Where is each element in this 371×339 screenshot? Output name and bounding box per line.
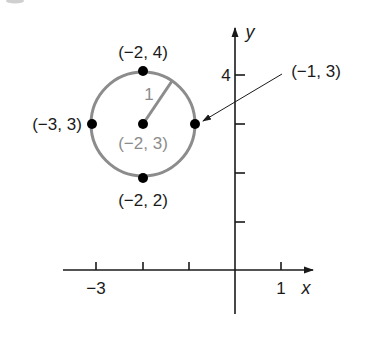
point-right	[190, 119, 200, 129]
x-tick-label-1: 1	[276, 279, 285, 298]
label-point-right: (−1, 3)	[291, 62, 341, 81]
label-point-bottom: (−2, 2)	[118, 191, 168, 210]
label-point-left: (−3, 3)	[32, 115, 82, 134]
circle-graph: −3 1 x 4 y 1 (−2, 3) (−2, 4) (−3, 3) (−1…	[0, 0, 371, 339]
callout-arrow	[203, 74, 282, 121]
radius-label: 1	[144, 85, 153, 104]
label-point-top: (−2, 4)	[118, 43, 168, 62]
center-point	[138, 119, 148, 129]
point-left	[87, 119, 97, 129]
point-bottom	[138, 173, 148, 183]
center-label: (−2, 3)	[118, 134, 168, 153]
cropped-mark	[6, 0, 24, 4]
x-axis: −3 1 x	[63, 262, 313, 298]
x-tick-label-neg3: −3	[86, 279, 105, 298]
x-axis-label: x	[301, 278, 312, 298]
points	[87, 66, 200, 183]
y-axis-label: y	[244, 22, 256, 42]
y-tick-label-4: 4	[221, 66, 230, 85]
point-labels: (−2, 4) (−3, 3) (−1, 3) (−2, 2)	[32, 43, 341, 210]
point-top	[138, 66, 148, 76]
